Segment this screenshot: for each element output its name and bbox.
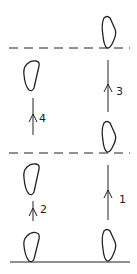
shape-right-bottom: [102, 230, 115, 262]
shape-right-top: [102, 17, 115, 49]
diagram-svg: 1 2 3 4: [0, 0, 137, 274]
arrow-label-4: 4: [39, 112, 46, 125]
arrow-label-2: 2: [40, 203, 47, 216]
arrow-3: 3: [104, 60, 123, 112]
arrow-1: 1: [104, 165, 126, 220]
arrow-label-3: 3: [116, 85, 123, 98]
arrow-label-1: 1: [119, 193, 126, 206]
shape-right-middle: [102, 122, 115, 153]
step-diagram: 1 2 3 4: [0, 0, 137, 274]
arrow-2: 2: [29, 201, 47, 221]
shape-left-upper: [24, 61, 39, 91]
arrow-4: 4: [29, 98, 46, 135]
shape-left-bottom: [24, 232, 39, 261]
shape-left-middle: [24, 164, 39, 195]
